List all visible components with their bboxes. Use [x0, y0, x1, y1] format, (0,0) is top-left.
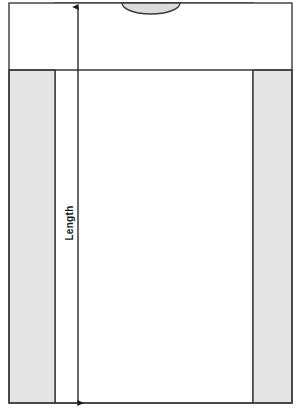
left-sleeve [9, 70, 55, 403]
right-sleeve [253, 70, 292, 403]
garment-illustration [0, 0, 301, 414]
garment-length-diagram: Length [0, 0, 301, 414]
